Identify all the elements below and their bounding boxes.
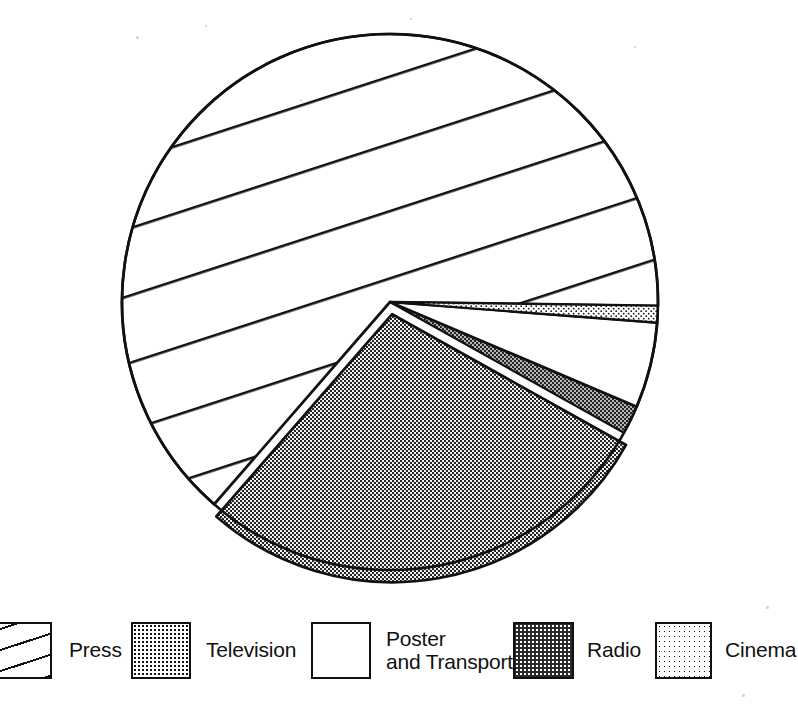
- chart-legend: Press Television Poster and Transport Ra…: [0, 617, 798, 687]
- legend-item-press[interactable]: Press: [0, 622, 122, 679]
- legend-swatch-cinema: [655, 622, 712, 679]
- legend-item-cinema[interactable]: Cinema: [655, 622, 796, 679]
- legend-label-radio: Radio: [587, 639, 641, 662]
- scan-speck: [205, 25, 207, 27]
- scan-speck: [136, 36, 139, 39]
- legend-label-cinema: Cinema: [725, 639, 796, 662]
- legend-swatch-radio: [513, 622, 574, 679]
- legend-label-poster-and-transport: Poster and Transport: [386, 628, 513, 673]
- legend-item-television[interactable]: Television: [131, 622, 296, 679]
- legend-swatch-press: [0, 622, 52, 679]
- legend-swatch-poster-and-transport: [311, 622, 371, 679]
- pie-chart-figure: Press Television Poster and Transport Ra…: [0, 0, 798, 711]
- scan-speck: [742, 694, 745, 697]
- legend-item-poster-and-transport[interactable]: Poster and Transport: [311, 622, 513, 679]
- scan-speck: [766, 606, 769, 609]
- scan-speck: [300, 99, 302, 101]
- scan-speck: [410, 18, 412, 20]
- scan-speck: [634, 46, 636, 48]
- pie-chart-canvas: [0, 0, 798, 617]
- legend-label-press: Press: [69, 639, 122, 662]
- legend-item-radio[interactable]: Radio: [513, 622, 641, 679]
- legend-label-television: Television: [206, 639, 296, 662]
- legend-swatch-television: [131, 622, 191, 679]
